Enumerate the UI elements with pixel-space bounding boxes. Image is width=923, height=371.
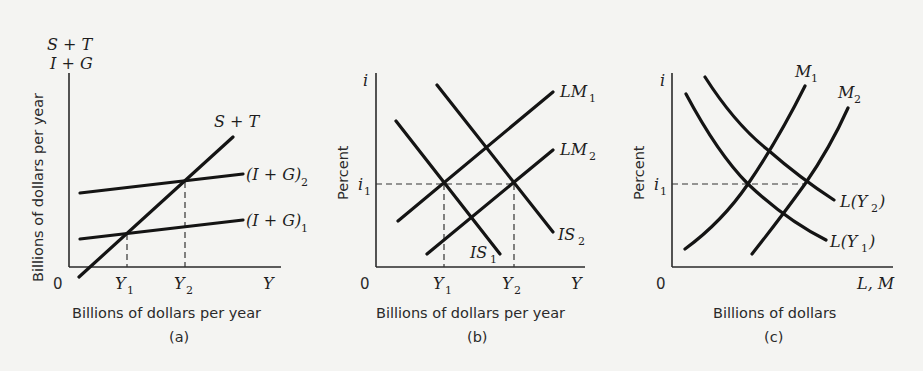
- ly2-sub: 2: [871, 202, 878, 215]
- ig1-sub: 1: [301, 222, 308, 235]
- i1-tick: i: [654, 175, 659, 194]
- ly2-curve: [705, 77, 834, 200]
- x-axis-title: Billions of dollars per year: [376, 305, 565, 321]
- ly1-sub: 1: [861, 242, 868, 255]
- y-top-label: i: [363, 71, 368, 90]
- figure: S + T I + G Billions of dollars per year…: [0, 0, 923, 371]
- origin-label: 0: [656, 275, 666, 293]
- i1-tick-sub: 1: [660, 185, 667, 198]
- m2-sub: 2: [854, 93, 861, 106]
- x-end-label: Y: [571, 274, 583, 293]
- x-end-label: Y: [263, 274, 275, 293]
- ig2-sub: 2: [301, 176, 308, 189]
- y1-tick: Y: [115, 274, 127, 293]
- lm1-label: LM: [559, 82, 588, 101]
- i1-tick-sub: 1: [364, 185, 371, 198]
- is2-sub: 2: [578, 235, 585, 248]
- caption-b: (b): [467, 329, 488, 345]
- x-axis-title: Billions of dollars per year: [72, 305, 261, 321]
- origin-label: 0: [53, 275, 63, 293]
- y2-tick-sub: 2: [186, 284, 193, 297]
- panel-b: i Percent LM 1 LM 2 IS 2 IS 1 i 1 0 Y 1 …: [335, 71, 596, 345]
- panel-a: S + T I + G Billions of dollars per year…: [30, 35, 308, 345]
- m2-label: M: [837, 83, 855, 102]
- ig2-line: [80, 174, 243, 193]
- y-axis-title: Percent: [335, 145, 351, 200]
- ly1-curve: [686, 94, 826, 240]
- is1-line: [396, 121, 500, 254]
- ly1-label: L(Y: [829, 232, 859, 251]
- caption-a: (a): [169, 329, 189, 345]
- st-label: S + T: [214, 112, 261, 131]
- ly2-paren: ): [878, 192, 885, 211]
- is1-label: IS: [469, 243, 487, 262]
- y-axis-title: Percent: [631, 145, 647, 200]
- y1-tick: Y: [433, 274, 445, 293]
- y-top-label: i: [660, 71, 665, 90]
- x-end-label: L, M: [856, 274, 895, 293]
- m1-label: M: [794, 62, 812, 81]
- y-top-label-1: S + T: [47, 35, 94, 54]
- panel-c: i Percent M 1 M 2 L(Y 2 ) L(Y 1 ) i 1 0 …: [631, 62, 895, 345]
- ig1-label: (I + G): [246, 211, 301, 230]
- y1-tick-sub: 1: [445, 284, 452, 297]
- lm2-line: [427, 150, 553, 254]
- is1-sub: 1: [490, 253, 497, 266]
- lm2-sub: 2: [589, 150, 596, 163]
- y-top-label-2: I + G: [49, 54, 93, 73]
- y2-tick: Y: [174, 274, 186, 293]
- st-line: [79, 137, 233, 277]
- ly1-paren: ): [868, 232, 875, 251]
- y2-tick: Y: [502, 274, 514, 293]
- is2-label: IS: [557, 225, 575, 244]
- origin-label: 0: [360, 275, 370, 293]
- lm1-sub: 1: [589, 92, 596, 105]
- x-axis-title: Billions of dollars: [713, 305, 836, 321]
- y2-tick-sub: 2: [514, 284, 521, 297]
- ly2-label: L(Y: [839, 192, 869, 211]
- ig1-line: [80, 220, 243, 239]
- lm2-label: LM: [559, 140, 588, 159]
- caption-c: (c): [764, 329, 783, 345]
- y-axis-title: Billions of dollars per year: [30, 93, 46, 282]
- m1-sub: 1: [811, 72, 818, 85]
- y1-tick-sub: 1: [127, 284, 134, 297]
- ig2-label: (I + G): [246, 165, 301, 184]
- i1-tick: i: [358, 175, 363, 194]
